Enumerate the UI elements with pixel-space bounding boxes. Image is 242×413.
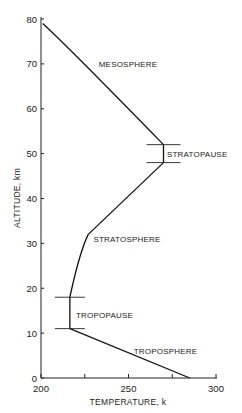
temperature-altitude-chart: 01020304050607080 200250300 MESOSPHEREST… (0, 0, 242, 413)
temperature-profile-line (43, 23, 190, 378)
y-tick-label: 10 (26, 328, 37, 339)
y-tick-label: 40 (26, 193, 37, 204)
x-tick-label: 200 (33, 383, 49, 394)
region-label-troposphere: TROPOSPHERE (134, 347, 198, 356)
y-tick-label: 30 (26, 238, 37, 249)
x-tick-label: 250 (121, 383, 137, 394)
y-tick-label: 0 (32, 373, 37, 384)
y-tick-label: 80 (26, 14, 37, 25)
y-axis-title: ALTITUDE, km (12, 168, 22, 228)
region-label-tropopause: TROPOPAUSE (76, 311, 133, 320)
region-label-mesosphere: MESOSPHERE (99, 60, 157, 69)
axes (41, 17, 217, 378)
y-tick-label: 70 (26, 58, 37, 69)
x-tick-label: 300 (208, 383, 224, 394)
x-axis-ticks: 200250300 (33, 374, 224, 394)
region-label-stratosphere: STRATOSPHERE (94, 235, 161, 244)
y-tick-label: 20 (26, 283, 37, 294)
region-label-stratopause: STRATOPAUSE (167, 150, 227, 159)
y-tick-label: 60 (26, 103, 37, 114)
x-axis-title: TEMPERATURE, k (90, 397, 167, 407)
region-labels: MESOSPHERESTRATOPAUSESTRATOSPHERETROPOPA… (76, 60, 227, 356)
y-tick-label: 50 (26, 148, 37, 159)
